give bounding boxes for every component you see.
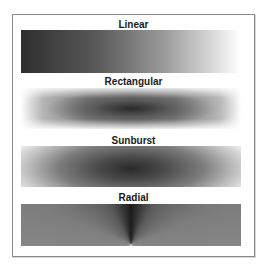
panel-label-sunburst: Sunburst [13,135,254,146]
linear-gradient-swatch [21,30,241,73]
panel-label-rectangular: Rectangular [13,76,254,87]
panel-label-linear: Linear [13,19,254,30]
panel-label-radial: Radial [13,192,254,203]
rectangular-gradient-swatch [21,88,241,129]
gradient-types-figure: Linear Rectangular Sunburst Radial [12,14,255,257]
sunburst-gradient-swatch [21,146,241,187]
radial-gradient-swatch [21,204,241,246]
